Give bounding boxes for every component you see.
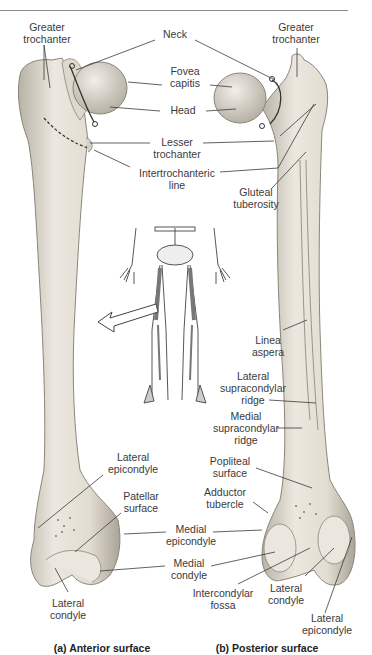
label-fovea-capitis: Fovea capitis [170,65,200,89]
inset-skeleton [98,227,230,403]
label-intercondylar-fossa: Intercondylar fossa [193,587,254,611]
label-patellar-surface: Patellar surface [123,490,159,514]
label-linea-aspera: Linea aspera [252,334,284,358]
label-medial-epicondyle: Medial epicondyle [166,523,216,547]
label-adductor-tubercle: Adductor tubercle [204,486,246,510]
label-popliteal-surface: Popliteal surface [210,455,250,479]
caption-anterior: (a) Anterior surface [54,642,150,654]
label-medial-supracondylar-ridge: Medial supracondylar ridge [213,410,279,446]
label-intertrochanteric-line: Intertrochanteric line [139,167,215,191]
label-neck: Neck [163,28,187,40]
label-lateral-epicondyle-anterior: Lateral epicondyle [108,451,158,475]
label-head: Head [170,104,195,116]
label-medial-condyle: Medial condyle [171,557,207,581]
label-greater-trochanter-anterior: Greater trochanter [23,21,70,45]
label-lateral-supracondylar-ridge: Lateral supracondylar ridge [220,370,286,406]
label-lesser-trochanter: Lesser trochanter [153,136,200,160]
label-greater-trochanter-posterior: Greater trochanter [272,21,319,45]
label-gluteal-tuberosity: Gluteal tuberosity [233,186,279,210]
label-lateral-condyle-posterior: Lateral condyle [268,582,304,606]
label-lateral-condyle-anterior: Lateral condyle [50,597,86,621]
caption-posterior: (b) Posterior surface [216,642,319,654]
label-lateral-epicondyle-posterior: Lateral epicondyle [302,612,352,636]
